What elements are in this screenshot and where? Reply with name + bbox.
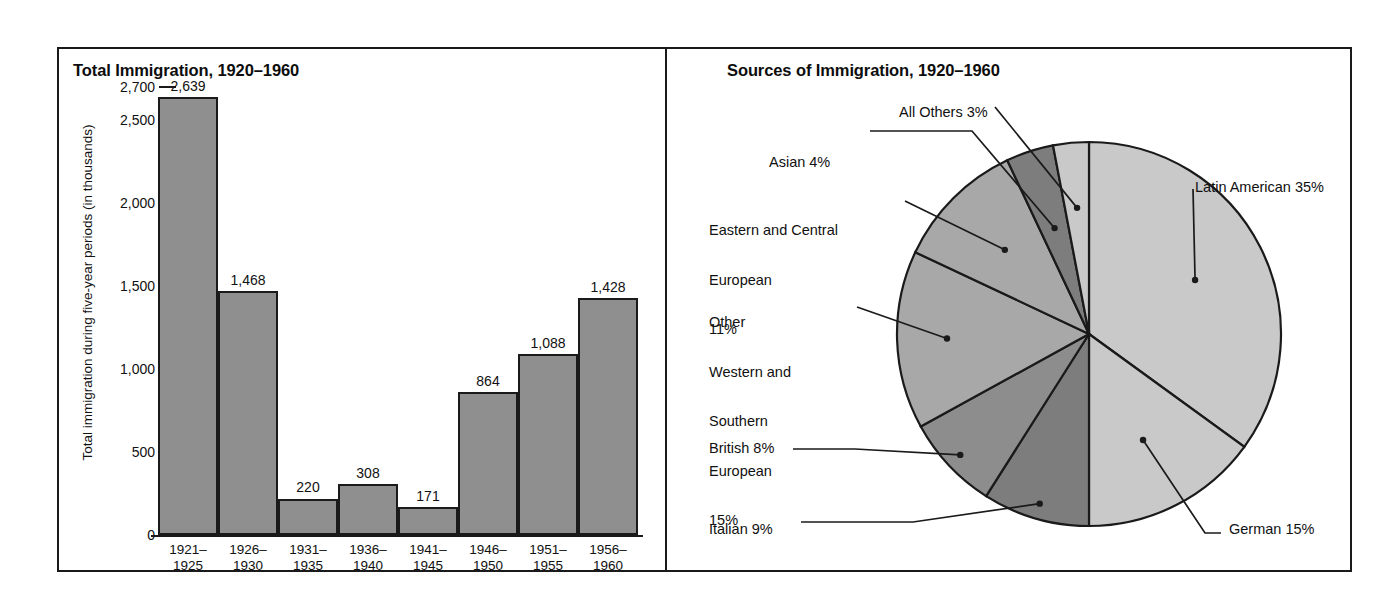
pie-label-asian: Asian 4% xyxy=(769,154,830,171)
y-axis-tick-label: 0 xyxy=(85,527,155,543)
bar-value-label: 220 xyxy=(268,479,348,495)
pie-chart-panel: Sources of Immigration, 1920–1960 All Ot… xyxy=(665,49,1350,570)
pie-label-all-others: All Others 3% xyxy=(899,104,988,121)
bar xyxy=(578,298,638,535)
bar-value-label: 171 xyxy=(388,488,468,504)
pie-label-british: British 8% xyxy=(709,440,774,457)
y-axis-tick-label: 2,500 xyxy=(85,112,155,128)
y-axis-tick-label: 2,700 xyxy=(85,79,155,95)
pie-leader-dot xyxy=(1051,225,1057,231)
y-axis-tick-label: 2,000 xyxy=(85,195,155,211)
pie-leader-dot xyxy=(944,335,950,341)
pie-label-line: Western and xyxy=(709,364,791,381)
pie-leader-dot xyxy=(1037,500,1043,506)
bar-value-label: 1,468 xyxy=(208,272,288,288)
y-axis-tick-label: 500 xyxy=(85,444,155,460)
y-axis-tick: 1,500 xyxy=(85,278,155,294)
pie-label-italian: Italian 9% xyxy=(709,521,773,538)
y-axis-tick: 500 xyxy=(85,444,155,460)
pie-label-line: Southern xyxy=(709,413,791,430)
pie-label-line: European xyxy=(709,463,791,480)
pie-leader-dot xyxy=(1002,247,1008,253)
pie-label-line: Other xyxy=(709,314,791,331)
bar-value-label: 308 xyxy=(328,465,408,481)
y-axis-tick-label: 1,000 xyxy=(85,361,155,377)
bar xyxy=(458,392,518,535)
y-axis-tick: 2,000 xyxy=(85,195,155,211)
bar xyxy=(158,97,218,535)
bar-value-label: 1,428 xyxy=(568,279,648,295)
bar xyxy=(278,499,338,536)
y-axis-tick: 2,700 xyxy=(85,79,155,95)
bar-chart-panel: Total Immigration, 1920–1960 Total immig… xyxy=(59,49,665,570)
bar-value-label: 2,639 xyxy=(148,78,228,94)
pie-label-german: German 15% xyxy=(1229,521,1314,538)
pie-leader-dot xyxy=(1192,277,1198,283)
x-axis-tick-label: 1956–1960 xyxy=(570,542,646,574)
figure-frame: Total Immigration, 1920–1960 Total immig… xyxy=(57,47,1352,572)
y-axis-tick: 0 xyxy=(85,527,155,543)
pie-label-other-western-southern-european: Other Western and Southern European 15% xyxy=(709,281,791,562)
y-axis-tick: 2,500 xyxy=(85,112,155,128)
pie-label-latin-american: Latin American 35% xyxy=(1195,179,1324,196)
pie-leader-dot xyxy=(1074,205,1080,211)
y-axis-tick: 1,000 xyxy=(85,361,155,377)
bar-value-label: 864 xyxy=(448,373,528,389)
pie-leader-dot xyxy=(1140,437,1146,443)
pie-leader-dot xyxy=(957,452,963,458)
x-axis-tick-label-line: 1960 xyxy=(570,558,646,574)
y-axis-tick-label: 1,500 xyxy=(85,278,155,294)
pie-label-line: Eastern and Central xyxy=(709,222,838,239)
bar xyxy=(398,507,458,535)
bar-chart-x-axis-line xyxy=(151,535,643,537)
x-axis-tick-label-line: 1956– xyxy=(570,542,646,558)
bar xyxy=(218,291,278,535)
bar-value-label: 1,088 xyxy=(508,335,588,351)
